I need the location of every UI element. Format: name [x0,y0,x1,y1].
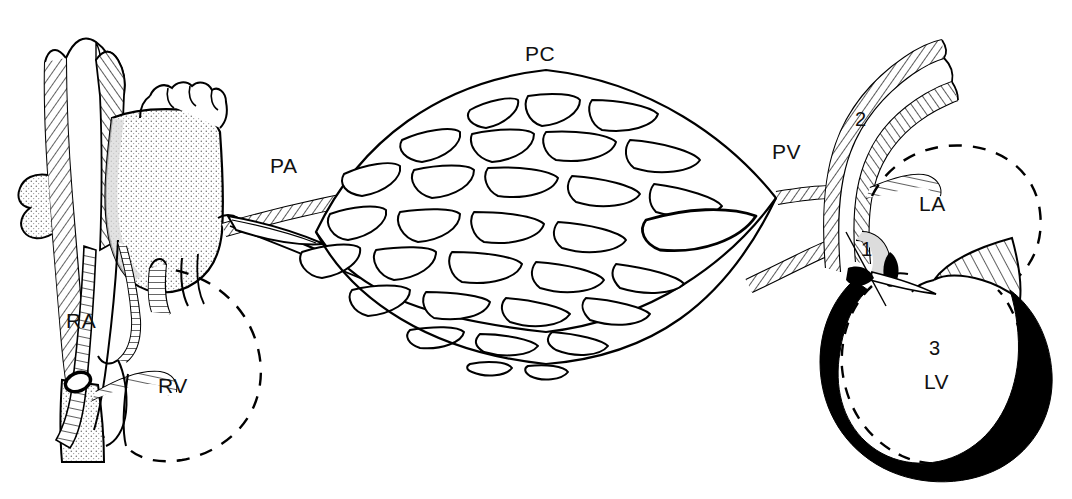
label-marker-three: 3 [929,337,940,359]
left-heart-group [820,40,1052,482]
label-marker-two: 2 [855,108,866,130]
label-left-ventricle: LV [924,370,949,393]
heart-circulation-diagram: RA RV PA PC PV LA LV 2 1 3 [0,0,1072,499]
label-pulmonary-veins: PV [772,140,801,163]
right-heart-group [18,39,260,462]
label-left-atrium: LA [919,192,946,215]
right-ventricle-chamber [124,268,261,461]
pulmonary-capillary-bed [300,70,776,379]
vena-cava-side-branch [18,175,52,239]
label-marker-one: 1 [861,238,872,260]
anatomical-figure: RA RV PA PC PV LA LV 2 1 3 [0,0,1072,499]
label-right-atrium: RA [66,309,96,332]
mitral-valve-leaflets [856,232,1021,300]
label-pulmonary-capillaries: PC [525,42,555,65]
label-right-ventricle: RV [158,374,188,397]
left-heart-inflow-arch [824,40,958,272]
label-pulmonary-artery: PA [270,154,297,177]
